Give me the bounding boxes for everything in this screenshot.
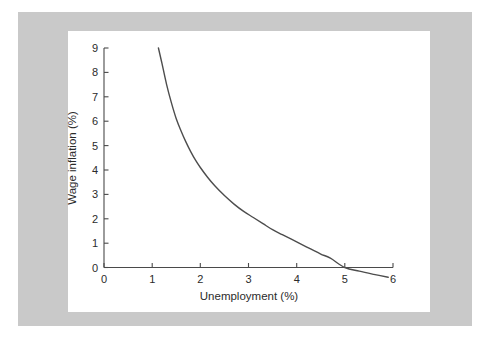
y-axis-ticks: [104, 48, 109, 268]
y-tick-label: 7: [92, 91, 98, 103]
y-tick-labels: 9 8 7 6 5 4 3 2 1 0: [92, 42, 98, 274]
x-axis-title: Unemployment (%): [200, 290, 299, 302]
x-axis-ticks: [104, 263, 393, 268]
x-tick-label: 0: [101, 273, 107, 285]
y-tick-label: 6: [92, 115, 98, 127]
x-tick-labels: 0 1 2 3 4 5 6: [101, 273, 396, 285]
y-tick-label: 2: [92, 213, 98, 225]
x-tick-label: 6: [390, 273, 396, 285]
y-tick-label: 4: [92, 164, 98, 176]
y-tick-label: 9: [92, 42, 98, 54]
y-tick-label: 8: [92, 66, 98, 78]
y-tick-label: 1: [92, 237, 98, 249]
x-tick-label: 5: [342, 273, 348, 285]
x-tick-label: 1: [149, 273, 155, 285]
x-tick-label: 3: [245, 273, 251, 285]
y-tick-label: 0: [92, 262, 98, 274]
y-axis-title: Wage inflation (%): [66, 111, 78, 205]
data-series-line: [158, 48, 388, 277]
x-tick-label: 4: [294, 273, 300, 285]
phillips-curve-chart: 9 8 7 6 5 4 3 2 1 0 0 1 2 3 4 5 6 Unempl…: [0, 0, 490, 342]
x-tick-label: 2: [197, 273, 203, 285]
y-tick-label: 3: [92, 188, 98, 200]
y-tick-label: 5: [92, 140, 98, 152]
figure-root: 9 8 7 6 5 4 3 2 1 0 0 1 2 3 4 5 6 Unempl…: [0, 0, 490, 342]
